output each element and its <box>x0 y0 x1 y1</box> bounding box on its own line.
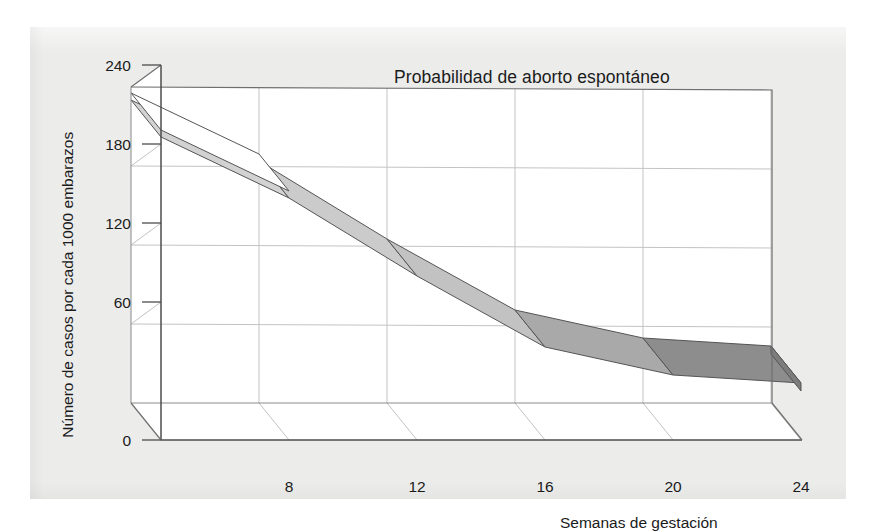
y-axis-title: Número de casos por cada 1000 embarazos <box>60 120 76 450</box>
x-axis-title: Semanas de gestación <box>560 515 718 531</box>
x-tick-label-8: 8 <box>269 479 309 495</box>
y-tick-label-120: 120 <box>85 216 131 232</box>
y-tick-label-0: 0 <box>85 433 131 449</box>
x-tick-label-20: 20 <box>653 479 693 495</box>
y-tick-label-180: 180 <box>85 137 131 153</box>
x-tick-label-24: 24 <box>781 479 821 495</box>
y-tick-label-240: 240 <box>85 58 131 74</box>
x-tick-label-16: 16 <box>525 479 565 495</box>
chart-panel: Probabilidad de aborto espontáneo Número… <box>30 27 846 499</box>
chart-title: Probabilidad de aborto espontáneo <box>394 69 670 87</box>
floor-plane <box>131 403 802 440</box>
x-tick-label-12: 12 <box>397 479 437 495</box>
three-d-ribbon-plot <box>30 27 846 499</box>
y-tick-label-60: 60 <box>85 295 131 311</box>
